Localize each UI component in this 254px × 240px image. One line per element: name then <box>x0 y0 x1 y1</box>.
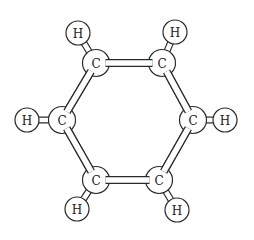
bond-socket-fill <box>67 71 91 112</box>
atom-label: C <box>57 114 66 128</box>
atom-label: C <box>157 57 166 71</box>
atom-label: H <box>73 27 83 41</box>
atom-label: H <box>220 114 230 128</box>
benzene-diagram: CCCCCCHHHHHH <box>0 0 254 240</box>
atom-label: H <box>170 26 180 40</box>
bond-socket-fill <box>67 128 92 171</box>
atom-label: H <box>172 204 182 218</box>
atom-label: C <box>91 174 100 188</box>
atom-label: C <box>188 114 197 128</box>
atom-label: H <box>72 203 82 217</box>
bond-socket-fill <box>164 128 189 171</box>
atom-label: C <box>154 174 163 188</box>
atom-label: H <box>22 114 32 128</box>
bond-socket-fill <box>167 71 189 111</box>
atoms-layer: CCCCCCHHHHHH <box>15 20 237 222</box>
atom-label: C <box>91 57 100 71</box>
